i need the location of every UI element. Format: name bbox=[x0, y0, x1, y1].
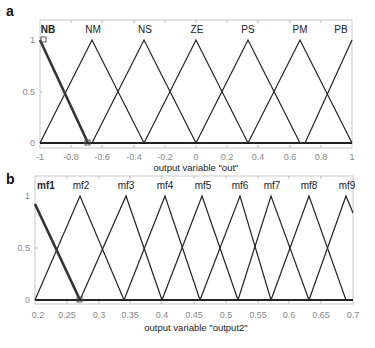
xtick: -0.6 bbox=[94, 152, 110, 162]
mf-label-mf3[interactable]: mf3 bbox=[118, 180, 135, 191]
xtick: 0.2 bbox=[32, 310, 45, 320]
xtick: -0.2 bbox=[157, 152, 173, 162]
mf-label-mf8[interactable]: mf8 bbox=[301, 180, 318, 191]
mf-label-nm[interactable]: NM bbox=[85, 24, 101, 35]
mf-curve-nm[interactable] bbox=[40, 40, 144, 143]
panel-a-label: a bbox=[6, 3, 14, 19]
mf-curve-pm[interactable] bbox=[248, 40, 352, 143]
panel-b-ytick-05: 0.5 bbox=[17, 243, 30, 253]
figure: a 1 0.5 0 -1 -0.8 -0.6 -0.4 -0.2 0 bbox=[0, 0, 375, 348]
mf-curve-ze[interactable] bbox=[144, 40, 248, 143]
xtick: 0.55 bbox=[249, 310, 267, 320]
panel-a-xticks: -1 -0.8 -0.6 -0.4 -0.2 0 0.2 0.4 0.6 0.8… bbox=[36, 152, 355, 162]
mf-label-mf7[interactable]: mf7 bbox=[264, 180, 281, 191]
mf-curve-mf5[interactable] bbox=[162, 196, 238, 300]
panel-b-ytick-0: 0 bbox=[25, 295, 30, 305]
mf-label-ns[interactable]: NS bbox=[138, 24, 152, 35]
panel-a-mf-labels: NB NM NS ZE PS PM PB bbox=[41, 24, 348, 35]
mf-label-pm[interactable]: PM bbox=[293, 24, 308, 35]
xtick: 0.4 bbox=[252, 152, 265, 162]
panel-b: b 1 0.5 0 0.2 0.25 0.3 0.35 0.4 0.45 0.5… bbox=[6, 171, 359, 333]
mf-curve-ns[interactable] bbox=[92, 40, 196, 143]
xtick: 0.5 bbox=[220, 310, 233, 320]
mf-curve-mf4[interactable] bbox=[124, 196, 200, 300]
panel-b-tick-marks bbox=[35, 176, 321, 304]
panel-b-xticks: 0.2 0.25 0.3 0.35 0.4 0.45 0.5 0.55 0.6 … bbox=[32, 310, 360, 320]
mf-curve-mf8[interactable] bbox=[271, 196, 346, 300]
mf-label-pb[interactable]: PB bbox=[334, 24, 348, 35]
xtick: 0.4 bbox=[156, 310, 169, 320]
panel-a-ytick-1: 1 bbox=[30, 35, 35, 45]
xtick: 0.7 bbox=[347, 310, 360, 320]
panel-a-curves bbox=[40, 40, 352, 143]
xtick: -0.4 bbox=[126, 152, 142, 162]
mf-curve-mf9[interactable] bbox=[309, 196, 353, 300]
panel-b-xlabel: output variable "output2" bbox=[144, 322, 247, 333]
xtick: -0.8 bbox=[63, 152, 79, 162]
mf-label-nb[interactable]: NB bbox=[41, 24, 55, 35]
xtick: 0.6 bbox=[283, 310, 296, 320]
mf-label-mf5[interactable]: mf5 bbox=[195, 180, 212, 191]
xtick: 0.25 bbox=[58, 310, 76, 320]
mf-curve-ps[interactable] bbox=[196, 40, 300, 143]
mf-curve-mf6[interactable] bbox=[200, 196, 271, 300]
xtick: 0.6 bbox=[284, 152, 297, 162]
panel-b-curves bbox=[35, 196, 353, 300]
xtick: 0.45 bbox=[185, 310, 203, 320]
mf-label-mf9[interactable]: mf9 bbox=[339, 180, 356, 191]
panel-b-ytick-1: 1 bbox=[25, 191, 30, 201]
xtick: -1 bbox=[36, 152, 44, 162]
mf-curve-mf2[interactable] bbox=[35, 196, 124, 300]
panel-b-label: b bbox=[6, 171, 15, 187]
mf-label-mf2[interactable]: mf2 bbox=[73, 180, 90, 191]
panel-a: a 1 0.5 0 -1 -0.8 -0.6 -0.4 -0.2 0 bbox=[6, 3, 355, 173]
mf-label-ps[interactable]: PS bbox=[241, 24, 255, 35]
xtick: 0 bbox=[193, 152, 198, 162]
mf-curve-mf3[interactable] bbox=[80, 196, 162, 300]
panel-a-ytick-05: 0.5 bbox=[22, 87, 35, 97]
panel-a-xlabel: output variable "out" bbox=[154, 162, 239, 173]
mf-label-mf1[interactable]: mf1 bbox=[37, 180, 55, 191]
panel-b-axes-box bbox=[35, 176, 353, 304]
xtick: 0.8 bbox=[315, 152, 328, 162]
xtick: 0.3 bbox=[93, 310, 106, 320]
xtick: 0.2 bbox=[221, 152, 234, 162]
mf-curve-pb[interactable] bbox=[305, 40, 352, 143]
xtick: 1 bbox=[349, 152, 354, 162]
mf-label-ze[interactable]: ZE bbox=[191, 24, 204, 35]
mf-label-mf4[interactable]: mf4 bbox=[157, 180, 174, 191]
xtick: 0.65 bbox=[312, 310, 330, 320]
xtick: 0.35 bbox=[121, 310, 139, 320]
panel-a-ytick-0: 0 bbox=[30, 138, 35, 148]
mf-label-mf6[interactable]: mf6 bbox=[232, 180, 249, 191]
mf-curve-mf7[interactable] bbox=[238, 196, 309, 300]
panel-b-mf-labels: mf1 mf2 mf3 mf4 mf5 mf6 mf7 mf8 mf9 bbox=[37, 180, 356, 191]
